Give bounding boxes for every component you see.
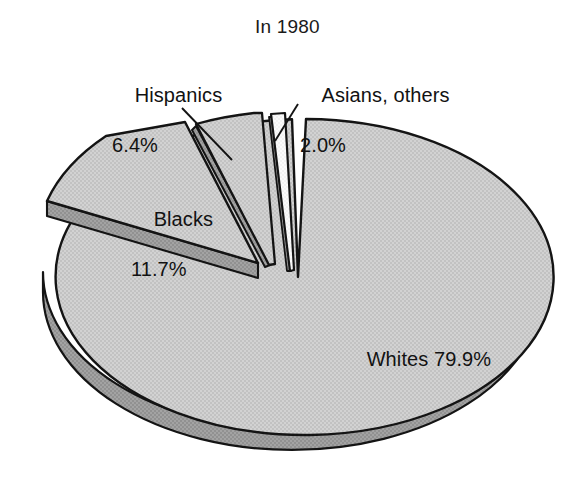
label-whites: Whites 79.9% — [344, 322, 491, 397]
label-blacks: Blacks 11.7% — [131, 182, 213, 332]
label-hispanics-name: Hispanics — [135, 84, 223, 106]
pie-chart-canvas — [0, 0, 575, 493]
label-hispanics-percent: 6.4% — [112, 133, 222, 158]
label-asians: Asians, others 2.0% — [300, 58, 450, 208]
label-blacks-name: Blacks — [154, 208, 214, 230]
label-asians-percent: 2.0% — [300, 133, 450, 158]
label-whites-text: Whites 79.9% — [367, 348, 492, 370]
pie-chart-figure: In 1980 Hispanics 6.4% Asians, others 2.… — [0, 0, 575, 493]
chart-title: In 1980 — [0, 16, 575, 38]
label-asians-name: Asians, others — [322, 84, 450, 106]
label-blacks-percent: 11.7% — [131, 257, 213, 282]
